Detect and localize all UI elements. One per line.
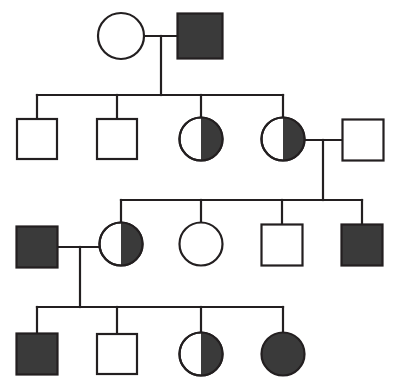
half-fill-IV-3 <box>201 333 223 376</box>
individual-I-1[interactable] <box>98 13 144 59</box>
individual-III-4[interactable] <box>262 225 303 266</box>
symbol-square-II-1[interactable] <box>17 119 57 159</box>
pedigree-chart <box>0 0 396 390</box>
symbol-square-IV-1[interactable] <box>17 334 58 375</box>
individual-III-5[interactable] <box>342 225 383 266</box>
individual-II-1[interactable] <box>17 119 57 159</box>
individual-IV-4[interactable] <box>262 333 305 376</box>
symbol-square-IV-2[interactable] <box>97 334 137 374</box>
individual-III-1[interactable] <box>17 227 58 268</box>
symbol-square-III-4[interactable] <box>262 225 303 266</box>
individual-III-2[interactable] <box>100 223 143 266</box>
symbol-square-II-5[interactable] <box>343 120 384 161</box>
individual-I-2[interactable] <box>178 14 223 59</box>
individual-IV-2[interactable] <box>97 334 137 374</box>
individual-II-5[interactable] <box>343 120 384 161</box>
symbol-circle-IV-4[interactable] <box>262 333 305 376</box>
half-fill-II-4 <box>283 118 305 161</box>
individual-III-3[interactable] <box>180 223 223 266</box>
half-fill-II-3 <box>201 118 223 161</box>
symbol-square-III-1[interactable] <box>17 227 58 268</box>
connector-lines-layer <box>37 36 362 334</box>
pedigree-canvas <box>0 0 396 390</box>
symbol-circle-I-1[interactable] <box>98 13 144 59</box>
symbol-square-I-2[interactable] <box>178 14 223 59</box>
symbol-square-III-5[interactable] <box>342 225 383 266</box>
individual-II-3[interactable] <box>180 118 223 161</box>
symbol-circle-III-3[interactable] <box>180 223 223 266</box>
individual-IV-3[interactable] <box>180 333 223 376</box>
symbol-square-II-2[interactable] <box>97 119 137 159</box>
half-fill-III-2 <box>121 223 143 266</box>
individual-IV-1[interactable] <box>17 334 58 375</box>
individual-II-4[interactable] <box>262 118 305 161</box>
individual-II-2[interactable] <box>97 119 137 159</box>
